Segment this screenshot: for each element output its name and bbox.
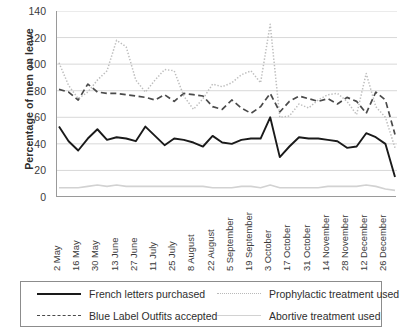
x-tick-3: 13 June: [109, 238, 120, 271]
x-tick-6: 25 July: [166, 241, 177, 271]
x-tick-9: 5 September: [224, 217, 235, 271]
x-tick-1: 16 May: [70, 240, 81, 271]
line-chart: Percentage of men on leave 1401201008060…: [0, 0, 400, 272]
x-tick-0: 2 May: [51, 245, 62, 271]
legend-row-2: Blue Label Outfits acceptedAbortive trea…: [21, 304, 383, 327]
legend-swatch-icon-0: [37, 288, 81, 300]
series-line-3: [59, 185, 395, 190]
y-tick-0: 0: [16, 192, 46, 202]
x-tick-4: 27 June: [128, 238, 139, 271]
x-axis-tick-labels: 2 May16 May30 May13 June27 June11 July25…: [56, 199, 396, 271]
legend-label-1: Blue Label Outfits accepted: [89, 310, 217, 322]
x-tick-10: 19 September: [243, 212, 254, 271]
y-tick-40: 40: [16, 139, 46, 149]
y-tick-60: 60: [16, 112, 46, 122]
chart-screenshot: Percentage of men on leave 1401201008060…: [0, 0, 400, 333]
x-tick-7: 8 August: [185, 235, 196, 272]
x-tick-12: 17 October: [281, 225, 292, 271]
x-tick-17: 26 December: [377, 215, 388, 271]
plot-area: [56, 11, 396, 197]
y-tick-20: 20: [16, 165, 46, 175]
x-tick-5: 11 July: [147, 242, 158, 271]
legend-item-1[interactable]: Blue Label Outfits accepted: [37, 304, 217, 327]
legend-label-2: Prophylactic treatment used: [269, 288, 399, 300]
x-tick-16: 12 December: [358, 215, 369, 271]
legend-swatch-icon-2: [217, 288, 261, 300]
x-tick-11: 3 October: [262, 230, 273, 271]
legend-label-0: French letters purchased: [89, 288, 205, 300]
series-canvas: [57, 11, 397, 197]
chart-legend: French letters purchasedProphylactic tre…: [20, 281, 382, 327]
x-tick-13: 31 October: [301, 225, 312, 271]
legend-item-3[interactable]: Abortive treatment used: [217, 304, 380, 327]
y-tick-100: 100: [16, 59, 46, 69]
legend-item-0[interactable]: French letters purchased: [37, 282, 205, 305]
y-tick-120: 120: [16, 33, 46, 43]
x-tick-14: 14 November: [320, 215, 331, 271]
series-line-2: [59, 24, 395, 148]
y-tick-80: 80: [16, 86, 46, 96]
legend-label-3: Abortive treatment used: [269, 310, 380, 322]
legend-swatch-icon-1: [37, 310, 81, 322]
y-axis-tick-labels: 140120100806040200: [14, 0, 46, 200]
x-tick-8: 22 August: [205, 229, 216, 271]
y-tick-140: 140: [16, 6, 46, 16]
legend-item-2[interactable]: Prophylactic treatment used: [217, 282, 399, 305]
legend-row-1: French letters purchasedProphylactic tre…: [21, 282, 383, 305]
series-line-0: [59, 117, 395, 177]
legend-swatch-icon-3: [217, 310, 261, 322]
x-tick-15: 28 November: [339, 215, 350, 271]
x-tick-2: 30 May: [89, 240, 100, 271]
series-line-1: [59, 84, 395, 134]
